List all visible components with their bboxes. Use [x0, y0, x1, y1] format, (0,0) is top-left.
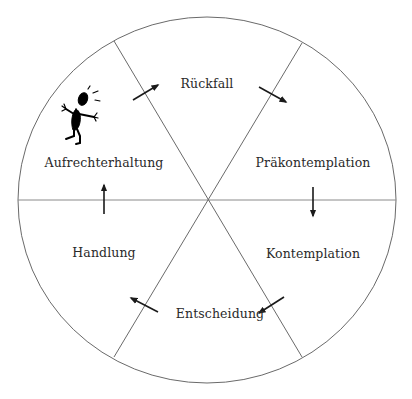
arrow-rueckfall-to-praekontemplation [259, 87, 286, 102]
arrow-entscheidung-to-handlung [131, 298, 158, 312]
stage-label-praekontemplation: Präkontemplation [256, 155, 371, 170]
arrow-aufrechterhaltung-to-rueckfall [133, 85, 158, 100]
stage-label-handlung: Handlung [72, 245, 135, 260]
stage-label-kontemplation: Kontemplation [266, 246, 360, 261]
stage-label-rueckfall: Rückfall [181, 76, 234, 91]
stage-label-aufrechterhaltung: Aufrechterhaltung [45, 155, 164, 170]
stage-label-entscheidung: Entscheidung [176, 306, 264, 321]
stages-of-change-wheel: Rückfall Präkontemplation Kontemplation … [0, 0, 412, 399]
wheel-graphic [0, 0, 412, 399]
stressed-stick-figure-icon [62, 86, 100, 144]
